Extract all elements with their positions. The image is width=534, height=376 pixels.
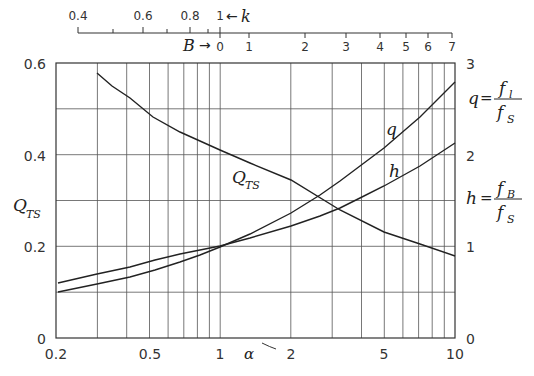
- b-tick-label: 3: [342, 40, 350, 54]
- y-left-tick-label: 0.6: [24, 56, 46, 72]
- x-tick-labels: 0.20.512510: [45, 346, 464, 362]
- k-tick-label: 0.4: [68, 9, 87, 23]
- k-tick-label: 0.6: [133, 9, 152, 23]
- plot-grid: [56, 63, 455, 338]
- svg-text:S: S: [507, 213, 515, 226]
- curve-label-q: q: [386, 119, 397, 139]
- svg-text:S: S: [507, 113, 515, 126]
- b-tick-label: 4: [376, 40, 384, 54]
- svg-text:TS: TS: [245, 179, 260, 192]
- x-tick-label: 0.5: [139, 346, 161, 362]
- svg-text:f: f: [495, 178, 506, 198]
- y-axis-right-label-h: h = f B f S: [466, 178, 522, 226]
- x-tick-label: 5: [380, 346, 389, 362]
- b-tick-label: 5: [402, 40, 410, 54]
- y-left-tick-labels: 00.20.40.6: [24, 56, 46, 347]
- k-tick-label: 0.8: [180, 9, 199, 23]
- x-axis-label-alpha: α: [244, 345, 254, 363]
- y-left-tick-label: 0.2: [24, 239, 46, 255]
- svg-text:l: l: [509, 88, 513, 101]
- y-axis-right-label-q: q = f l f S: [468, 78, 522, 126]
- svg-text:q: q: [468, 88, 479, 108]
- svg-text:Q: Q: [13, 195, 27, 215]
- svg-text:TS: TS: [26, 208, 41, 221]
- x-tick-label: 0.2: [45, 346, 67, 362]
- y-left-tick-label: 0.4: [24, 148, 46, 164]
- x-tick-label: 10: [446, 346, 464, 362]
- x-tick-label: 2: [287, 346, 296, 362]
- alpha-leader-line: [262, 343, 276, 349]
- y-right-tick-label: 0: [466, 331, 475, 347]
- b-tick-label: 6: [424, 40, 432, 54]
- k-ticks: 0.40.60.81: [68, 9, 223, 33]
- b-tick-label: 7: [448, 40, 456, 54]
- b-ticks: 01234567: [216, 33, 456, 54]
- k-tick-label: 1: [216, 9, 224, 23]
- y-right-tick-label: 1: [466, 239, 475, 255]
- svg-text:B: B: [506, 188, 515, 201]
- chart: 0.40.60.81 01234567 k ← B → Q TS q h Q T…: [0, 0, 534, 376]
- curve-label-h: h: [389, 161, 400, 181]
- svg-text:Q: Q: [232, 167, 246, 187]
- svg-text:h: h: [466, 188, 477, 208]
- svg-text:f: f: [495, 102, 506, 122]
- b-tick-label: 2: [301, 40, 309, 54]
- y-right-tick-label: 2: [466, 148, 475, 164]
- b-tick-label: 1: [245, 40, 253, 54]
- curve-label-q-ts: Q TS: [232, 167, 260, 192]
- b-tick-label: 0: [216, 40, 224, 54]
- x-tick-label: 1: [216, 346, 225, 362]
- y-left-tick-label: 0: [37, 331, 46, 347]
- svg-text:=: =: [480, 189, 493, 207]
- b-arrow-icon: →: [199, 37, 211, 53]
- k-arrow-icon: ←: [226, 8, 238, 24]
- svg-text:f: f: [495, 202, 506, 222]
- top-axis: 0.40.60.81 01234567 k ← B →: [68, 7, 455, 55]
- svg-text:f: f: [497, 78, 508, 98]
- b-axis-label: B: [182, 36, 195, 55]
- y-right-tick-label: 3: [466, 56, 475, 72]
- svg-text:=: =: [480, 89, 493, 107]
- k-axis-label: k: [241, 7, 251, 26]
- curve-q-ts: [97, 73, 455, 256]
- y-axis-left-label: Q TS: [13, 195, 41, 221]
